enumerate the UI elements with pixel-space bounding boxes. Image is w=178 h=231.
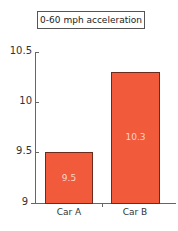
y-axis — [35, 52, 36, 204]
chart-title: 0-60 mph acceleration — [37, 11, 145, 29]
bar-car-a: 9.5 — [45, 152, 93, 204]
y-tick — [35, 102, 39, 103]
y-tick — [31, 203, 35, 204]
y-tick — [35, 152, 39, 153]
bar-car-b: 10.3 — [111, 72, 160, 204]
x-tick — [102, 204, 103, 207]
y-tick-label: 9 — [0, 196, 28, 207]
x-category-label: Car A — [44, 207, 94, 217]
bar-value-label: 10.3 — [112, 132, 159, 142]
y-tick-label: 10.5 — [2, 45, 32, 56]
y-tick-label: 10 — [2, 95, 32, 106]
y-tick-label: 9.5 — [2, 145, 32, 156]
x-category-label: Car B — [110, 207, 160, 217]
bar-value-label: 9.5 — [46, 173, 92, 183]
y-tick — [35, 52, 39, 53]
